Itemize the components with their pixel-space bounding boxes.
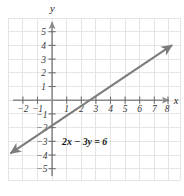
x-tick-label: −2 xyxy=(17,104,28,114)
y-tick-label: 1 xyxy=(41,82,46,92)
x-tick-label: 6 xyxy=(137,104,142,114)
x-tick-label: 3 xyxy=(93,104,99,114)
y-axis-label: y xyxy=(49,3,55,14)
coordinate-plane-svg: −2 −1 1 2 3 4 5 6 7 8 5 4 3 2 1 −1 −2 −3… xyxy=(0,0,184,196)
y-tick-label: −3 xyxy=(36,137,47,147)
y-tick-label: −4 xyxy=(36,151,47,161)
x-axis-label: x xyxy=(173,95,179,106)
y-tick-label: 4 xyxy=(41,41,46,51)
y-tick-label: −1 xyxy=(36,110,47,120)
x-tick-label: 4 xyxy=(108,104,113,114)
x-tick-label: 8 xyxy=(165,104,170,114)
x-tick-label: 5 xyxy=(123,104,128,114)
y-tick-label: 2 xyxy=(41,68,46,78)
x-tick-label: 1 xyxy=(64,104,69,114)
y-tick-label: 3 xyxy=(40,55,46,65)
y-tick-label: −5 xyxy=(36,164,47,174)
graph-figure: −2 −1 1 2 3 4 5 6 7 8 5 4 3 2 1 −1 −2 −3… xyxy=(0,0,184,196)
y-tick-label: 5 xyxy=(41,27,46,37)
equation-annotation: 2x − 3y = 6 xyxy=(61,136,107,147)
